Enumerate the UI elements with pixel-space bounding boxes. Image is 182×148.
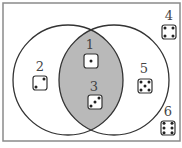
die-face-2-icon	[33, 76, 47, 90]
die-face-5-icon	[138, 79, 152, 93]
die-face-1-icon	[84, 54, 98, 68]
die-face-3-icon	[88, 95, 102, 109]
element-label: 4	[165, 8, 173, 23]
die-face-4-icon	[162, 25, 176, 39]
die-face-6-icon	[161, 121, 175, 135]
element-label: 1	[86, 37, 94, 52]
element-label: 2	[36, 59, 44, 74]
venn-diagram: 123456	[0, 0, 182, 148]
element-label: 3	[90, 79, 98, 94]
element-label: 6	[164, 104, 172, 119]
element-label: 5	[140, 61, 148, 76]
